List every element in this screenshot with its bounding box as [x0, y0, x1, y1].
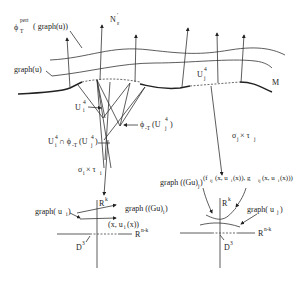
svg-text:(U: (U — [152, 120, 161, 129]
svg-text:graph ((Gu): graph ((Gu) — [160, 178, 198, 187]
graph-u-leader — [46, 71, 52, 76]
manifold-M-dashed — [82, 79, 140, 82]
svg-text:): ) — [68, 207, 71, 216]
svg-text:n-k: n-k — [264, 226, 272, 232]
label-graph-u: graph(u) — [14, 65, 42, 74]
svg-text:4: 4 — [204, 66, 207, 72]
svg-text:(U: (U — [79, 137, 88, 146]
svg-text:k: k — [105, 196, 108, 202]
svg-text:(x)): (x)) — [127, 220, 139, 229]
svg-text:ϕ: ϕ — [140, 120, 144, 129]
svg-text:(x, u: (x, u — [262, 174, 275, 182]
cover-fan-lines — [78, 80, 145, 168]
sigma-j-arrow — [211, 86, 222, 175]
normal-fiber-5 — [217, 33, 218, 83]
svg-text:4: 4 — [55, 134, 58, 140]
svg-text:): ) — [170, 120, 173, 129]
svg-text:): ) — [280, 205, 283, 214]
svg-text:j: j — [203, 75, 206, 81]
svg-text:N: N — [110, 15, 116, 24]
svg-text:j: j — [253, 136, 256, 142]
label-sigma-i: σ i × τ i — [78, 165, 102, 176]
label-Uj-top: U 4 j — [197, 66, 207, 81]
svg-text:U: U — [48, 137, 54, 146]
svg-text:graph ((Gu): graph ((Gu) — [125, 204, 163, 213]
svg-text:′: ′ — [117, 12, 118, 18]
svg-text:(x, u: (x, u — [215, 174, 228, 182]
left-chart-panel: R k R n-k D 3 graph( u i ) graph ((Gu) i… — [35, 196, 168, 268]
svg-text:i: i — [100, 170, 102, 176]
svg-text:j: j — [164, 125, 167, 131]
normal-fiber-3 — [135, 35, 136, 82]
svg-text:(f: (f — [203, 174, 208, 182]
svg-text:pert: pert — [20, 17, 29, 23]
normal-fiber-4 — [182, 28, 188, 87]
svg-text:j: j — [90, 142, 93, 148]
label-sigma-j: σ j × τ j — [232, 131, 256, 142]
manifold-perturbation-diagram: ϕ pert T ( graph(u)) N ε ′ graph(u) M U … — [0, 0, 302, 282]
svg-text:∩ ϕ: ∩ ϕ — [59, 137, 71, 146]
svg-text:(x))): (x))) — [280, 174, 293, 182]
svg-text:-T: -T — [145, 125, 151, 131]
svg-text:i: i — [124, 224, 126, 230]
svg-text:ε: ε — [117, 20, 120, 26]
svg-text:ij: ij — [210, 178, 213, 183]
svg-text:k: k — [228, 196, 231, 202]
manifold-M-right — [240, 82, 272, 92]
svg-text:): ) — [95, 137, 98, 146]
svg-text:T: T — [20, 28, 24, 34]
svg-text:(x)), g: (x)), g — [233, 174, 251, 182]
svg-text:-T: -T — [72, 142, 78, 148]
svg-text:U: U — [197, 70, 203, 79]
svg-text:× τ: × τ — [86, 165, 97, 174]
label-fg-pair: (f ij (x, u i (x)), g ij (x, u i (x))) — [203, 174, 293, 183]
manifold-M-dashed2 — [190, 82, 240, 86]
svg-text:j: j — [236, 136, 239, 142]
svg-text:i: i — [83, 107, 85, 113]
svg-text:3: 3 — [82, 240, 85, 246]
svg-text:ij: ij — [258, 178, 261, 183]
manifold-M-left — [18, 82, 82, 94]
svg-text:i: i — [83, 170, 85, 176]
svg-text:j: j — [276, 209, 279, 215]
svg-text:( graph(u)): ( graph(u)) — [33, 22, 68, 31]
svg-text:): ) — [165, 204, 168, 213]
svg-text:U: U — [75, 103, 81, 112]
label-Ui: U 4 i — [75, 99, 86, 113]
normal-fiber-6 — [241, 35, 244, 83]
svg-text:i: i — [55, 142, 57, 148]
svg-text:(x, u: (x, u — [108, 220, 123, 229]
svg-text:ϕ: ϕ — [14, 23, 18, 32]
label-phi-T-Uj: ϕ -T (U j 4 ) — [140, 116, 173, 131]
svg-text:graph( u: graph( u — [247, 205, 274, 214]
label-phi-pert: ϕ pert T ( graph(u)) — [14, 17, 68, 34]
normal-fiber-1 — [67, 38, 70, 88]
svg-text:n-k: n-k — [141, 227, 149, 233]
right-chart-panel: R k R n-k D 3 graph ((Gu) j ) graph( u j… — [160, 174, 293, 268]
svg-text:3: 3 — [230, 240, 233, 246]
label-intersection: U 4 i ∩ ϕ -T (U j 4 ) — [48, 134, 98, 148]
svg-text:4: 4 — [165, 116, 168, 122]
svg-text:4: 4 — [91, 134, 94, 140]
phi-pert-leader — [70, 31, 82, 48]
label-M: M — [272, 78, 279, 87]
svg-text:× τ: × τ — [240, 131, 251, 140]
perturbed-graph-curve — [50, 48, 285, 60]
svg-text:4: 4 — [83, 99, 86, 105]
graph-u-curve — [52, 60, 272, 76]
label-normal-bundle: N ε ′ — [110, 12, 120, 26]
svg-text:graph( u: graph( u — [35, 207, 62, 216]
